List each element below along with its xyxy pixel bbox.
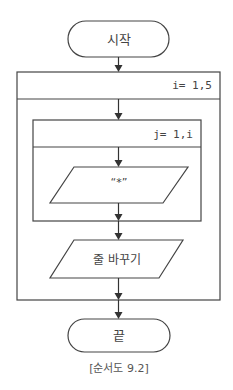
start-label: 시작 xyxy=(107,32,131,47)
newline-node: 줄 바꾸기 xyxy=(50,240,183,278)
output-star-label: “*” xyxy=(111,176,128,189)
arrowhead-icon xyxy=(115,233,123,240)
newline-label: 줄 바꾸기 xyxy=(93,253,141,267)
arrowhead-icon xyxy=(115,160,123,167)
arrowhead-icon xyxy=(115,214,123,221)
flowchart-diagram: 시작 i= 1,5 j= 1,i “*” 줄 바꾸기 xyxy=(0,0,233,390)
arrowhead-icon xyxy=(115,65,123,72)
arrowhead-icon xyxy=(115,293,123,300)
arrowhead-icon xyxy=(115,113,123,120)
inner-loop-label: j= 1,i xyxy=(153,128,193,141)
start-terminal: 시작 xyxy=(68,21,169,57)
end-terminal: 끝 xyxy=(68,319,170,352)
output-star-node: “*” xyxy=(50,167,188,203)
figure-caption: [순서도 9.2] xyxy=(89,362,149,375)
outer-loop-label: i= 1,5 xyxy=(172,79,212,92)
arrowhead-icon xyxy=(115,312,123,319)
end-label: 끝 xyxy=(113,328,125,343)
